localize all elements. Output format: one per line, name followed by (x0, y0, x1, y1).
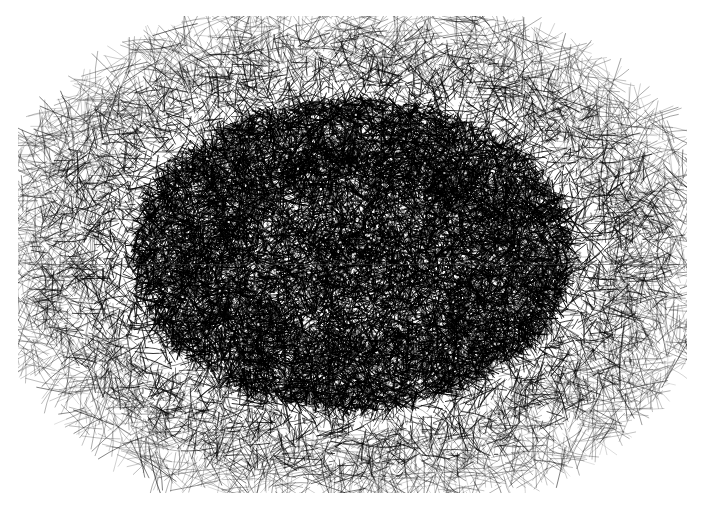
scribble-field (0, 0, 711, 512)
artwork-canvas (0, 0, 711, 512)
